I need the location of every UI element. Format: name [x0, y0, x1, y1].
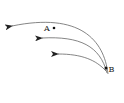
- point-b-label: B: [109, 65, 115, 74]
- inner-arc-arrow: [58, 54, 106, 71]
- diagram-canvas: A B: [0, 0, 124, 103]
- point-a-dot: [53, 27, 56, 30]
- outer-arc-arrow: [12, 22, 108, 74]
- point-b-dot: [105, 67, 108, 70]
- point-a-label: A: [43, 24, 50, 33]
